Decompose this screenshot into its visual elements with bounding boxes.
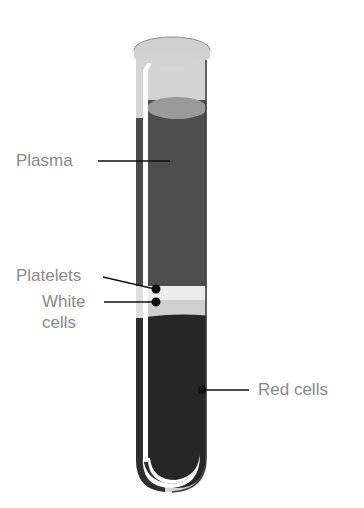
platelets-dot [152,285,161,294]
blood-tube-diagram: Plasma Platelets White cells Red cells [0,0,364,508]
white-cells-label-line1: White [42,292,85,311]
white-cells-dot [152,298,161,307]
plasma-layer [140,95,210,287]
liquid-column [140,95,210,500]
plasma-label: Plasma [16,151,73,170]
white-cells-label-line2: cells [42,313,76,332]
plasma-surface [147,97,207,119]
red-cells-label: Red cells [258,380,328,399]
test-tube-illustration [0,0,364,508]
platelets-label: Platelets [16,266,81,285]
